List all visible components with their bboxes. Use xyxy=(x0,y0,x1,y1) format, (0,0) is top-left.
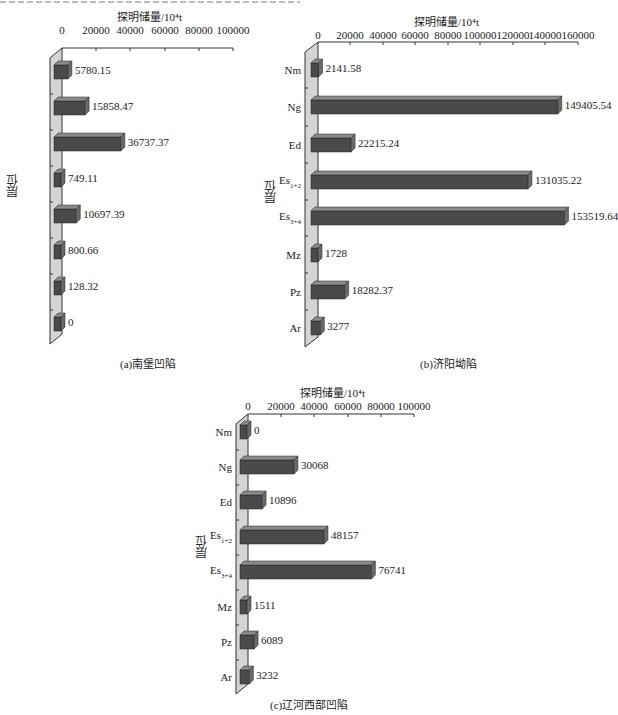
category-label: Pz xyxy=(221,636,232,648)
value-label: 0 xyxy=(254,424,260,436)
value-label: 6089 xyxy=(261,634,283,646)
bar xyxy=(240,421,251,439)
bar xyxy=(240,631,258,649)
category-label: Es3+4 xyxy=(210,564,232,579)
value-label: 10896 xyxy=(269,494,297,506)
bar xyxy=(240,491,266,509)
bar xyxy=(240,596,251,614)
value-label: 76741 xyxy=(378,564,406,576)
category-label: Es1+2 xyxy=(210,529,232,544)
plot-area xyxy=(0,0,618,715)
category-label: Mz xyxy=(217,601,232,613)
category-label: Nm xyxy=(216,426,233,438)
value-label: 3232 xyxy=(256,669,278,681)
value-label: 1511 xyxy=(254,599,276,611)
bar xyxy=(240,561,375,579)
value-label: 30068 xyxy=(301,459,329,471)
value-label: 48157 xyxy=(331,529,359,541)
y-axis-title: 层位 xyxy=(193,535,210,559)
category-label: Ar xyxy=(220,671,232,683)
bar xyxy=(240,456,298,474)
bar xyxy=(240,526,328,544)
bar xyxy=(240,666,253,684)
chart-c-liaohe-west-sag: 探明储量/10⁴t 0 20000 40000 60000 80000 1000… xyxy=(0,0,618,715)
chart-caption: (c)辽河西部凹陷 xyxy=(270,696,348,712)
category-label: Ng xyxy=(219,461,232,473)
category-label: Ed xyxy=(220,496,232,508)
